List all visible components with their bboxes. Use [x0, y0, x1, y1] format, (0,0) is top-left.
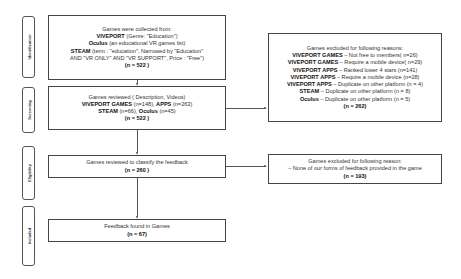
exclusion-reason: VIVEPORT GAMES – Require a mobile device… — [269, 59, 441, 66]
screening-box: Games reviewed ( Description, Videos) VI… — [48, 86, 226, 130]
identification-count: (n = 522 ) — [49, 62, 225, 69]
exclusion-title: Games excluded for following reasons: — [269, 45, 441, 52]
included-box: Feedback found in Games (n = 67) — [48, 219, 226, 242]
exclusion-reason: VIVEPORT APPS – Duplicate on other platf… — [269, 81, 441, 88]
arrow-right-icon — [264, 165, 267, 167]
eligibility-title: Games reviewed to classify the feedback — [49, 159, 225, 166]
identification-steam-cont: AND "VR ONLY" AND "VR SUPPORT", Price : … — [49, 55, 225, 62]
included-count: (n = 67) — [49, 231, 225, 238]
included-title: Feedback found in Games — [49, 223, 225, 230]
stage-identification: Identification — [22, 16, 35, 78]
exclusion-count: (n = 193) — [269, 173, 441, 180]
exclusion-reason: VIVEPORT APPS – Ranked lower 4 stars (n=… — [269, 67, 441, 74]
identification-title: Games were collected from: — [49, 26, 225, 33]
stage-eligibility: Eligibility — [22, 146, 35, 200]
stage-screening: Screening — [22, 87, 35, 133]
stage-identification-label: Identification — [26, 35, 31, 60]
stage-included: Included — [22, 206, 35, 266]
connector-line — [137, 130, 138, 153]
identification-box: Games were collected from: VIVEPORT (Gen… — [48, 15, 226, 80]
exclusion-reason: – None of our forms of feedback provided… — [269, 165, 441, 172]
stage-screening-label: Screening — [26, 100, 31, 119]
exclusion-title: Games excluded for following reason: — [269, 158, 441, 165]
arrow-right-icon — [264, 107, 267, 109]
exclusion-count: (n = 262) — [269, 103, 441, 110]
exclusion-reason: STEAM – Duplicate on other platform (n =… — [269, 88, 441, 95]
exclusion-reason: Oculus – Duplicate on other platform (n … — [269, 96, 441, 103]
exclusion-reason: VIVEPORT APPS – Require a mobile device … — [269, 74, 441, 81]
connector-line — [226, 108, 266, 109]
screening-count: (n = 522 ) — [49, 115, 225, 122]
stage-included-label: Included — [26, 228, 31, 244]
screening-title: Games reviewed ( Description, Videos) — [49, 94, 225, 101]
eligibility-count: (n = 260 ) — [49, 167, 225, 174]
screening-steam-oculus: STEAM (n=66), Oculus (n=45) — [49, 108, 225, 115]
identification-steam: STEAM (term : "education", Narrowed by "… — [49, 48, 225, 55]
screening-viveport: VIVEPORT GAMES (n=148), APPS (n=263) — [49, 101, 225, 108]
stage-eligibility-label: Eligibility — [26, 164, 31, 182]
identification-viveport: VIVEPORT (Genre: "Education") — [49, 33, 225, 40]
connector-line — [137, 178, 138, 217]
exclusion-box-screening: Games excluded for following reasons: VI… — [268, 33, 442, 122]
connector-line — [226, 166, 266, 167]
eligibility-box: Games reviewed to classify the feedback … — [48, 155, 226, 178]
identification-oculus: Oculus (an educational VR games list) — [49, 40, 225, 47]
exclusion-reason: VIVEPORT GAMES – Not free to members( n=… — [269, 52, 441, 59]
exclusion-box-eligibility: Games excluded for following reason: – N… — [268, 154, 442, 184]
